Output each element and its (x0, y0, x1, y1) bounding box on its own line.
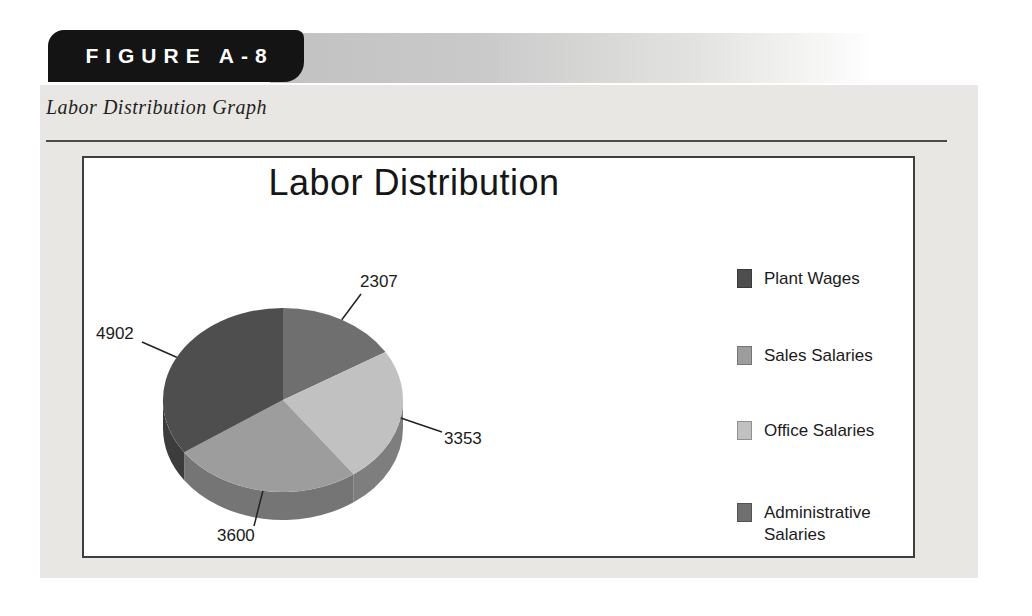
legend-item: Administrative Salaries (737, 502, 896, 546)
pie-value-label: 4902 (96, 324, 134, 344)
divider-rule (46, 140, 947, 142)
legend-swatch (737, 269, 752, 288)
pie-value-label: 3600 (217, 526, 255, 546)
legend-swatch (737, 346, 752, 365)
figure-tab-label: FIGURE A-8 (78, 44, 273, 68)
legend-label: Plant Wages (764, 268, 896, 290)
figure-header-gradient (270, 33, 960, 83)
legend-item: Office Salaries (737, 420, 896, 442)
legend-item: Plant Wages (737, 268, 896, 290)
leader-line (401, 418, 442, 432)
figure-caption: Labor Distribution Graph (46, 96, 267, 119)
legend-swatch (737, 421, 752, 440)
chart-legend: Plant WagesSales SalariesOffice Salaries… (737, 158, 897, 556)
leader-line (142, 342, 177, 357)
pie-value-label: 2307 (360, 272, 398, 292)
legend-swatch (737, 503, 752, 522)
leader-line (342, 294, 361, 320)
legend-item: Sales Salaries (737, 345, 896, 367)
legend-label: Office Salaries (764, 420, 896, 442)
legend-label: Sales Salaries (764, 345, 896, 367)
chart-frame: Labor Distribution 2307335336004902 Plan… (82, 156, 915, 558)
legend-label: Administrative Salaries (764, 502, 896, 546)
figure-tab: FIGURE A-8 (48, 30, 304, 82)
pie-value-label: 3353 (444, 429, 482, 449)
